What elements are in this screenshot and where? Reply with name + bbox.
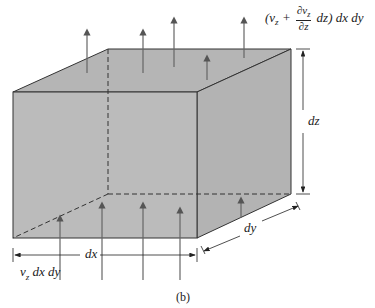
frac-num: ∂v <box>297 4 307 16</box>
cube-drawing <box>0 0 375 308</box>
dy-label: dy <box>244 220 256 236</box>
partial-fraction: ∂vz∂z <box>296 5 311 32</box>
outflow-open: (v <box>265 10 275 25</box>
frac-num-sub: z <box>307 10 310 19</box>
control-volume-diagram: dx dz dy vz dx dy (vz + ∂vz∂z dz) dx dy … <box>0 0 375 308</box>
outflow-plus: + <box>279 10 294 25</box>
dx-label: dx <box>85 246 97 262</box>
dx-dimension <box>13 248 197 262</box>
front-face <box>13 92 197 238</box>
inflow-rest: dx dy <box>29 264 60 279</box>
inflow-label: vz dx dy <box>20 264 60 282</box>
outflow-close: dz) dx dy <box>313 10 363 25</box>
dz-label: dz <box>308 113 320 129</box>
frac-den: ∂z <box>299 21 309 32</box>
outflow-label: (vz + ∂vz∂z dz) dx dy <box>265 5 364 32</box>
figure-caption: (b) <box>176 290 190 305</box>
